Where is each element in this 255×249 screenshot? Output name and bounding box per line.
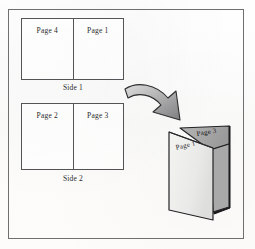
diagram-canvas: Page 4 Page 1 Side 1 Page 2 Page 3 Side … bbox=[0, 0, 255, 249]
page-label-page-3: Page 3 bbox=[73, 111, 124, 120]
page-label-page-4: Page 4 bbox=[22, 26, 73, 35]
side-label-side-2: Side 2 bbox=[21, 174, 125, 183]
sheet-side-2: Page 2 Page 3 bbox=[21, 103, 124, 170]
page-label-page-1: Page 1 bbox=[73, 26, 124, 35]
sheet-side-2-right-half: Page 3 bbox=[73, 104, 124, 169]
folded-booklet: Page 3 Page 1 bbox=[166, 124, 244, 228]
sheet-side-2-left-half: Page 2 bbox=[22, 104, 73, 169]
sheet-side-1-right-half: Page 1 bbox=[73, 19, 124, 79]
page-label-page-2: Page 2 bbox=[22, 111, 73, 120]
side-label-side-1: Side 1 bbox=[21, 83, 125, 92]
sheet-side-1-left-half: Page 4 bbox=[22, 19, 73, 79]
sheet-side-1: Page 4 Page 1 bbox=[21, 18, 124, 80]
